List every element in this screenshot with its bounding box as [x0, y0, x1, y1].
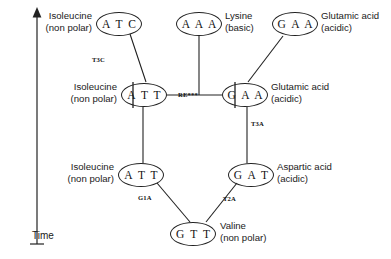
node-aaa-amino-acid: Lysine	[225, 10, 254, 22]
figure-connectors	[0, 0, 391, 259]
node-gaa-top-codon: G A A	[276, 18, 314, 30]
node-att-low[interactable]: A T T	[118, 163, 164, 187]
node-gtt-property: (non polar)	[220, 232, 266, 244]
node-att-low-amino-acid: Isoleucine	[40, 161, 114, 173]
edge-atc-att	[130, 34, 146, 82]
node-aaa[interactable]: A A A	[176, 12, 222, 36]
node-gat-amino-acid: Aspartic acid	[277, 161, 332, 173]
node-att-mid[interactable]: A T T	[121, 83, 167, 107]
node-att-mid-amino-acid: Isoleucine	[43, 81, 117, 93]
edge-attlow-gtt	[157, 183, 190, 222]
node-gaa-top-annotation: Glutamic acid (acidic)	[321, 10, 379, 33]
node-gat-property: (acidic)	[277, 173, 332, 185]
node-atc-amino-acid: Isoleucine	[18, 10, 92, 22]
node-gtt-codon: G T T	[174, 228, 211, 240]
node-att-low-codon: A T T	[123, 169, 159, 181]
edge-label-t2a: T2A	[223, 195, 236, 202]
time-axis	[30, 7, 44, 244]
node-gaa-mid-property: (acidic)	[271, 93, 329, 105]
tree-edges	[130, 34, 283, 222]
edge-gat-gtt	[206, 183, 237, 222]
edge-label-g1a: G1A	[138, 194, 152, 201]
node-att-low-property: (non polar)	[40, 173, 114, 185]
node-aaa-annotation: Lysine (basic)	[225, 10, 254, 33]
node-gtt-amino-acid: Valine	[220, 220, 266, 232]
node-gaa-mid-amino-acid: Glutamic acid	[271, 81, 329, 93]
edge-gaatop-gaamid	[248, 36, 283, 82]
node-atc-codon: A T C	[100, 18, 137, 30]
time-axis-label: Time	[32, 230, 54, 241]
node-gat[interactable]: G A T	[228, 163, 274, 187]
node-gaa-mid-annotation: Glutamic acid (acidic)	[271, 81, 329, 104]
node-aaa-property: (basic)	[225, 22, 254, 34]
node-att-mid-property: (non polar)	[43, 93, 117, 105]
node-atc-property: (non polar)	[18, 22, 92, 34]
node-gaa-mid[interactable]: G A A	[222, 83, 268, 107]
node-gat-codon: G A T	[232, 169, 270, 181]
node-att-mid-codon: A T T	[126, 89, 162, 101]
mutation-tree-figure: A T C Isoleucine (non polar) A A A Lysin…	[0, 0, 391, 259]
node-gtt-annotation: Valine (non polar)	[220, 220, 266, 243]
edge-label-t3c: T3C	[92, 56, 105, 63]
node-gaa-top[interactable]: G A A	[272, 12, 318, 36]
node-att-mid-annotation: Isoleucine (non polar)	[43, 81, 117, 104]
node-aaa-codon: A A A	[180, 18, 218, 30]
node-atc[interactable]: A T C	[96, 12, 142, 36]
node-gat-annotation: Aspartic acid (acidic)	[277, 161, 332, 184]
node-atc-annotation: Isoleucine (non polar)	[18, 10, 92, 33]
node-gaa-top-amino-acid: Glutamic acid	[321, 10, 379, 22]
edge-label-re: RE***	[178, 91, 198, 98]
node-att-low-annotation: Isoleucine (non polar)	[40, 161, 114, 184]
node-gtt[interactable]: G T T	[170, 222, 216, 246]
node-gaa-top-property: (acidic)	[321, 22, 379, 34]
node-gaa-mid-codon: G A A	[226, 89, 264, 101]
edge-label-t3a: T3A	[251, 120, 264, 127]
